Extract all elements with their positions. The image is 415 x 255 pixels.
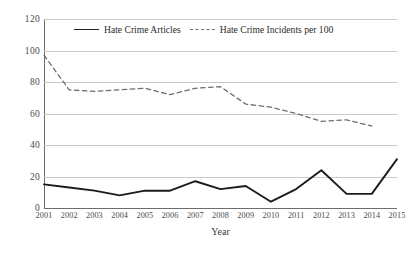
legend-label-incidents: Hate Crime Incidents per 100 <box>220 25 334 35</box>
legend-dashed-line-icon <box>190 29 215 30</box>
hate-crime-line-chart: 120100806040200 200120022003200420052006… <box>0 0 415 255</box>
legend-solid-line-icon <box>74 29 99 30</box>
legend-label-articles: Hate Crime Articles <box>104 25 181 35</box>
x-tick-label-2014: 2014 <box>363 211 380 220</box>
x-tick-label-2012: 2012 <box>313 211 330 220</box>
x-tick-label-2007: 2007 <box>187 211 204 220</box>
x-tick-label-2005: 2005 <box>136 211 153 220</box>
x-tick-label-2008: 2008 <box>212 211 229 220</box>
x-axis-title: Year <box>44 226 397 237</box>
x-tick-label-2003: 2003 <box>86 211 103 220</box>
x-tick-label-2009: 2009 <box>237 211 254 220</box>
x-tick-label-2011: 2011 <box>288 211 304 220</box>
x-tick-label-2001: 2001 <box>36 211 53 220</box>
legend-entry-incidents: Hate Crime Incidents per 100 <box>190 25 334 35</box>
x-tick-label-2015: 2015 <box>389 211 406 220</box>
x-tick-label-2002: 2002 <box>61 211 78 220</box>
x-axis-ticks: 2001200220032004200520062007200820092010… <box>44 211 397 227</box>
chart-legend: Hate Crime Articles Hate Crime Incidents… <box>74 25 333 35</box>
legend-entry-articles: Hate Crime Articles <box>74 25 181 35</box>
x-tick-label-2010: 2010 <box>263 211 280 220</box>
x-tick-label-2013: 2013 <box>338 211 355 220</box>
x-tick-label-2004: 2004 <box>111 211 128 220</box>
series-line-articles <box>44 159 397 202</box>
x-tick-label-2006: 2006 <box>162 211 179 220</box>
series-line-incidents <box>44 55 372 126</box>
